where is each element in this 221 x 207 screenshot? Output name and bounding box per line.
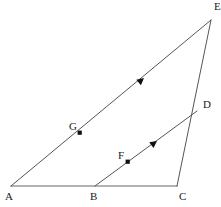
geometry-figure: A B C D E F G <box>0 0 221 207</box>
point-label-F: F <box>118 150 124 161</box>
segment-AE <box>11 20 211 186</box>
vertex-label-D: D <box>203 99 211 110</box>
segment-BD <box>95 111 197 186</box>
vertex-label-B: B <box>90 191 97 202</box>
point-label-G: G <box>69 121 77 132</box>
arrow-on-AE-icon <box>136 75 146 85</box>
vertex-label-C: C <box>179 191 186 202</box>
point-F <box>126 160 130 164</box>
geometry-canvas <box>0 0 221 207</box>
point-G <box>78 131 82 135</box>
vertex-label-A: A <box>5 191 13 202</box>
vertex-label-E: E <box>214 1 221 12</box>
